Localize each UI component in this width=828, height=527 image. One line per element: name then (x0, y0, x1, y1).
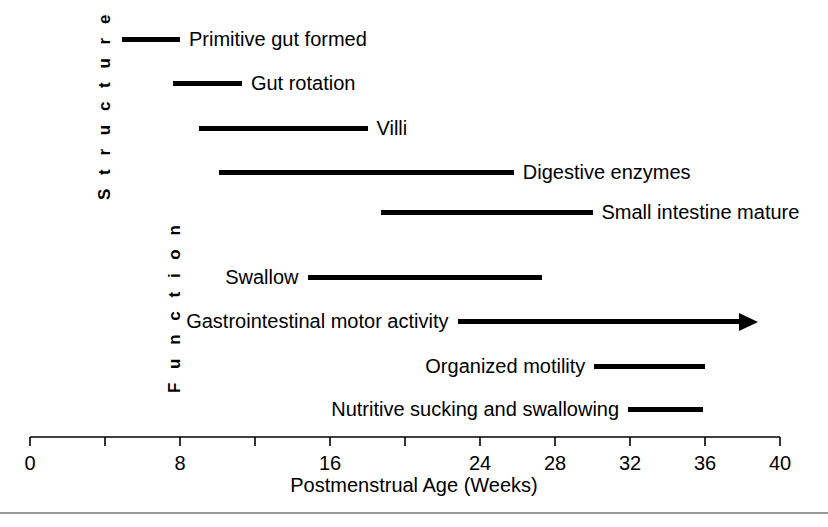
timeline-row-label: Small intestine mature (602, 200, 800, 224)
timeline-row: Organized motility (0, 354, 828, 378)
timeline-row: Gut rotation (0, 71, 828, 95)
x-axis-tick-label: 36 (694, 452, 716, 475)
timeline-row-label: Primitive gut formed (189, 27, 367, 51)
timeline-bar (458, 319, 742, 324)
x-axis-tick-label: 0 (24, 452, 35, 475)
timeline-bar (628, 407, 703, 412)
timeline-row: Digestive enzymes (0, 160, 828, 184)
timeline-row: Primitive gut formed (0, 27, 828, 51)
timeline-row-label: Nutritive sucking and swallowing (331, 397, 619, 421)
timeline-bar (199, 126, 368, 131)
arrow-head-icon (739, 313, 758, 331)
x-axis-title: Postmenstrual Age (Weeks) (0, 474, 828, 497)
bottom-divider-rule (0, 512, 828, 514)
timeline-bar (173, 81, 242, 86)
timeline-row: Swallow (0, 265, 828, 289)
timeline-row: Small intestine mature (0, 200, 828, 224)
timeline-row-label: Swallow (225, 265, 298, 289)
timeline-bar (122, 37, 180, 42)
timeline-row: Villi (0, 116, 828, 140)
timeline-bar (381, 210, 593, 215)
timeline-row-label: Digestive enzymes (523, 160, 691, 184)
timeline-row-label: Gastrointestinal motor activity (186, 309, 448, 333)
x-axis-tick-label: 16 (319, 452, 341, 475)
timeline-row: Gastrointestinal motor activity (0, 309, 828, 333)
x-axis-tick-label: 8 (174, 452, 185, 475)
timeline-row: Nutritive sucking and swallowing (0, 397, 828, 421)
x-axis-tick-label: 32 (619, 452, 641, 475)
timeline-row-label: Organized motility (425, 354, 585, 378)
timeline-bar (308, 275, 542, 280)
x-axis-tick-label: 28 (544, 452, 566, 475)
timeline-row-label: Villi (377, 116, 408, 140)
timeline-row-label: Gut rotation (251, 71, 356, 95)
gi-development-timeline-figure: S t r u c t u r e F u n c t i o n Primit… (0, 0, 828, 527)
timeline-bar (594, 364, 705, 369)
x-axis-tick-label: 40 (769, 452, 791, 475)
x-axis-tick-label: 24 (469, 452, 491, 475)
timeline-bar (219, 170, 513, 175)
x-axis-title-text: Postmenstrual Age (Weeks) (290, 474, 538, 497)
